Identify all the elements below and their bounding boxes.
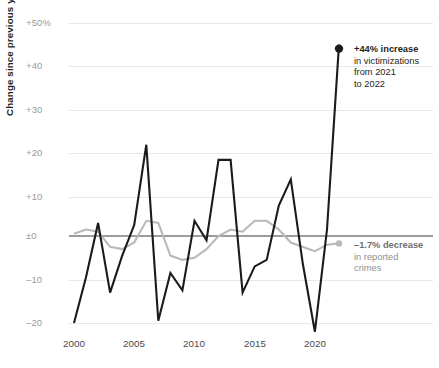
annotation-decrease-line3: crimes — [354, 263, 423, 275]
x-tick-2010: 2010 — [183, 338, 205, 349]
annotation-decrease-line1: –1.7% decrease — [354, 240, 423, 252]
annotation-increase-line1: +44% increase — [354, 44, 419, 56]
x-tick-2015: 2015 — [244, 338, 266, 349]
grey-series-endpoint-marker — [336, 240, 342, 246]
annotation-decrease-line2: in reported — [354, 252, 423, 264]
annotation-decrease: –1.7% decrease in reported crimes — [354, 240, 423, 275]
dark-series-endpoint-marker — [335, 44, 343, 52]
y-tick-zero: ±0 — [26, 230, 70, 241]
annotation-increase-line3: from 2021 — [354, 67, 419, 79]
y-tick-10: +10 — [26, 191, 70, 202]
annotation-increase-line4: to 2022 — [354, 79, 419, 91]
series-victimizations — [74, 45, 339, 332]
y-axis-title: Change since previous year — [4, 0, 15, 116]
y-tick-20: +20 — [26, 147, 70, 158]
y-tick-50: +50% — [26, 17, 70, 28]
x-tick-2020: 2020 — [304, 338, 326, 349]
y-tick-30: +30 — [26, 104, 70, 115]
annotation-increase-line2: in victimizations — [354, 56, 419, 68]
x-tick-2005: 2005 — [123, 338, 145, 349]
x-tick-2000: 2000 — [63, 338, 85, 349]
chart-container: +50% +40 +30 +20 +10 ±0 –10 –20 Change s… — [0, 0, 439, 368]
y-tick-neg20: –20 — [26, 317, 70, 328]
annotation-increase: +44% increase in victimizations from 202… — [354, 44, 419, 90]
y-tick-40: +40 — [26, 60, 70, 71]
y-tick-neg10: –10 — [26, 274, 70, 285]
